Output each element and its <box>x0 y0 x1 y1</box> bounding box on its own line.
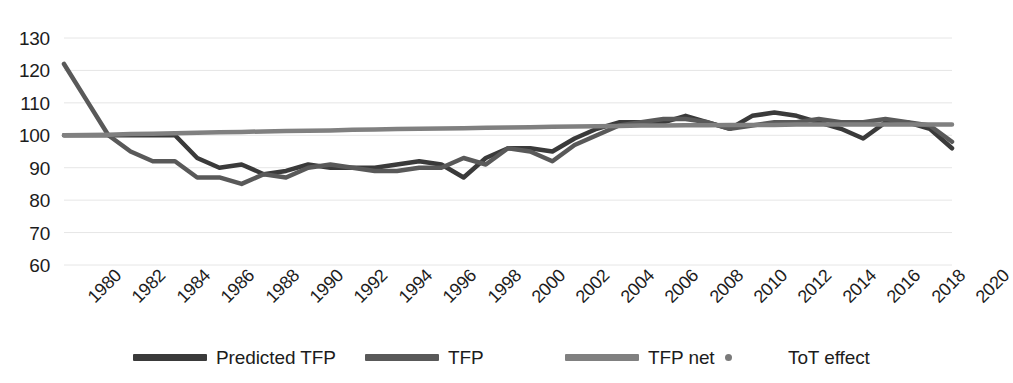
chart-canvas <box>0 0 960 290</box>
legend-label: TFP <box>448 348 484 367</box>
series-line <box>64 125 952 136</box>
plot-area: 13012011010090807060 <box>0 0 960 290</box>
x-tick-label: 2020 <box>972 266 1012 306</box>
legend-label: Predicted TFP <box>216 348 336 367</box>
legend-label: ToT effect <box>788 348 870 367</box>
x-tick-label: 2018 <box>928 266 968 306</box>
x-tick-label: 1994 <box>395 266 435 306</box>
legend-line-icon <box>133 354 207 361</box>
x-tick-label: 2010 <box>750 266 790 306</box>
legend-item[interactable]: Predicted TFP <box>133 340 336 374</box>
x-tick-label: 1988 <box>262 266 302 306</box>
x-axis: 1980198219841986198819901992199419961998… <box>0 266 960 330</box>
legend-item[interactable]: ToT effect <box>725 340 870 374</box>
x-tick-label: 1990 <box>306 266 346 306</box>
x-tick-label: 2014 <box>839 266 879 306</box>
x-tick-label: 1982 <box>129 266 169 306</box>
x-tick-label: 2004 <box>617 266 657 306</box>
x-tick-label: 1986 <box>218 266 258 306</box>
x-tick-label: 2008 <box>706 266 746 306</box>
x-tick-label: 2000 <box>528 266 568 306</box>
x-tick-label: 1980 <box>84 266 124 306</box>
gridlines <box>64 38 952 265</box>
x-tick-label: 1998 <box>484 266 524 306</box>
legend-label: TFP net <box>648 348 715 367</box>
x-tick-label: 2006 <box>662 266 702 306</box>
legend-item[interactable]: TFP <box>365 340 484 374</box>
legend-dot-icon <box>725 354 732 361</box>
x-tick-label: 1992 <box>351 266 391 306</box>
x-tick-label: 1996 <box>440 266 480 306</box>
legend-item[interactable]: TFP net <box>565 340 715 374</box>
x-tick-label: 2012 <box>795 266 835 306</box>
legend-line-icon <box>365 354 439 361</box>
series-lines <box>64 64 952 184</box>
chart-legend: Predicted TFPTFPTFP netToT effect <box>0 340 960 374</box>
x-tick-label: 1984 <box>173 266 213 306</box>
x-tick-label: 2002 <box>573 266 613 306</box>
legend-line-icon <box>565 354 639 361</box>
x-tick-label: 2016 <box>884 266 924 306</box>
